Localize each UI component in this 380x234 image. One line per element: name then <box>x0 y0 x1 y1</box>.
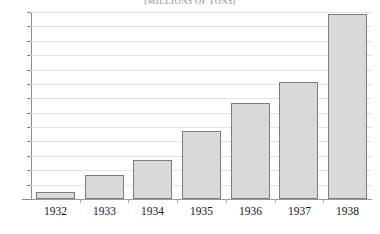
x-axis-tick-label: 1938 <box>323 203 372 219</box>
bar-chart: (MILLIONS OF TONS) 193219331934193519361… <box>0 0 380 234</box>
bar <box>36 192 75 199</box>
x-axis-tick-label: 1934 <box>128 203 177 219</box>
x-axis-tick-label: 1937 <box>275 203 324 219</box>
bar <box>279 82 318 199</box>
x-axis-tick-label: 1936 <box>226 203 275 219</box>
x-axis-tick-mark <box>177 199 178 203</box>
bar <box>328 14 367 199</box>
bar <box>231 103 270 199</box>
bars-group <box>31 12 372 199</box>
x-axis-tick-label: 1932 <box>31 203 80 219</box>
x-axis-tick-mark <box>80 199 81 203</box>
x-axis-tick-labels: 1932193319341935193619371938 <box>31 203 372 225</box>
chart-title: (MILLIONS OF TONS) <box>0 0 380 5</box>
gridline <box>31 199 372 200</box>
bar <box>133 160 172 199</box>
x-axis-tick-mark <box>226 199 227 203</box>
x-axis-tick-label: 1933 <box>80 203 129 219</box>
bar <box>182 131 221 199</box>
x-axis-tick-mark <box>128 199 129 203</box>
x-axis-tick-label: 1935 <box>177 203 226 219</box>
plot-area <box>31 12 372 199</box>
y-axis-tick-mark <box>27 199 31 200</box>
bar <box>85 175 124 199</box>
x-axis-tick-mark <box>323 199 324 203</box>
x-axis-tick-mark <box>275 199 276 203</box>
